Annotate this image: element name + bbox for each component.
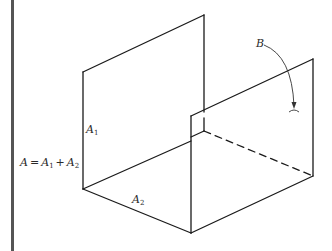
equation-equals: = (28, 156, 41, 169)
front-panel-top-edge (191, 59, 313, 116)
floor-back-edge (83, 141, 191, 189)
hidden-floor-edge (204, 131, 313, 176)
label-a2: A2 (132, 194, 144, 207)
margin-bar (11, 0, 14, 251)
label-a1: A1 (86, 124, 98, 137)
equation-term1-sub: 1 (49, 162, 53, 170)
label-b: B (256, 38, 264, 49)
back-panel-top-edge (83, 15, 204, 72)
label-b-text: B (256, 37, 264, 50)
equation-term2-sub: 2 (75, 162, 79, 170)
equation-term2-main: A (67, 156, 75, 169)
angle-section-diagram (0, 0, 332, 251)
label-a2-main: A (132, 193, 140, 206)
label-a1-main: A (86, 123, 94, 136)
b-arrow-bracket (289, 110, 299, 112)
label-a1-sub: 1 (94, 129, 98, 137)
b-arrow-head-icon (292, 102, 297, 109)
label-a2-sub: 2 (140, 199, 144, 207)
equation-plus: + (54, 156, 67, 169)
inner-corner-tick-left (191, 131, 204, 137)
equation-term1-main: A (41, 156, 49, 169)
front-panel-bottom-edge (191, 176, 313, 233)
equation-lhs: A (20, 156, 28, 169)
equation-label: A=A1+A2 (20, 157, 79, 170)
